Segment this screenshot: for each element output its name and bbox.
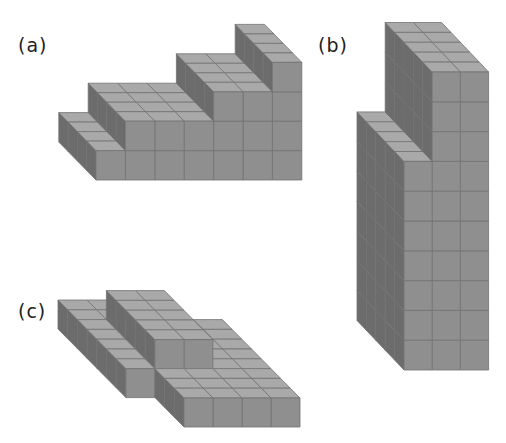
cube-face: [184, 121, 213, 150]
cube-face: [125, 121, 154, 150]
cube-face: [272, 62, 301, 91]
figure-label-b: (b): [318, 34, 348, 56]
cube-face: [404, 191, 432, 221]
cube-face: [214, 151, 243, 180]
cube-face: [460, 310, 488, 340]
cube-face: [184, 340, 213, 369]
cube-face: [96, 151, 125, 180]
cube-face: [432, 102, 460, 132]
figure-b: [357, 23, 489, 371]
cube-face: [432, 340, 460, 370]
cube-face: [155, 340, 184, 369]
cube-face: [272, 92, 301, 121]
cube-face: [460, 102, 488, 132]
cube-face: [432, 251, 460, 281]
figure-label-c: (c): [18, 300, 46, 322]
cube-face: [460, 72, 488, 102]
cube-face: [404, 161, 432, 191]
cube-face: [243, 121, 272, 150]
figure-canvas: [0, 0, 506, 443]
cube-face: [272, 121, 301, 150]
cube-face: [460, 132, 488, 162]
cube-face: [460, 251, 488, 281]
cube-face: [404, 221, 432, 251]
cube-face: [125, 151, 154, 180]
cube-face: [432, 72, 460, 102]
cube-face: [155, 121, 184, 150]
cube-face: [432, 310, 460, 340]
cube-face: [432, 161, 460, 191]
cube-face: [213, 398, 242, 427]
figure-label-a: (a): [18, 34, 47, 56]
cube-face: [243, 151, 272, 180]
cube-face: [184, 398, 213, 427]
cube-face: [214, 92, 243, 121]
cube-face: [460, 161, 488, 191]
cube-face: [460, 221, 488, 251]
cube-face: [184, 151, 213, 180]
cube-face: [404, 251, 432, 281]
cube-face: [460, 340, 488, 370]
cube-face: [404, 281, 432, 311]
cube-face: [432, 281, 460, 311]
cube-face: [460, 281, 488, 311]
cube-face: [243, 92, 272, 121]
cube-face: [404, 340, 432, 370]
cube-face: [214, 121, 243, 150]
cube-face: [404, 310, 432, 340]
figure-a: [59, 24, 302, 180]
cube-face: [155, 151, 184, 180]
cube-face: [432, 191, 460, 221]
cube-face: [432, 221, 460, 251]
cube-face: [272, 151, 301, 180]
cube-face: [126, 369, 155, 398]
cube-face: [242, 398, 271, 427]
cube-face: [271, 398, 300, 427]
figure-c: [58, 291, 300, 427]
cube-face: [460, 191, 488, 221]
cube-face: [432, 132, 460, 162]
